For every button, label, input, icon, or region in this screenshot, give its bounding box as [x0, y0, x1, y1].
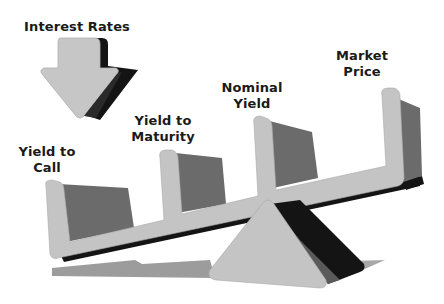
yield-to-call-label: Yield to Call [19, 144, 76, 176]
label-line: Nominal [222, 80, 283, 96]
label-line: Yield to [131, 113, 195, 129]
label-line: Maturity [131, 129, 195, 145]
yield-to-maturity-label: Yield to Maturity [131, 113, 195, 145]
label-line: Yield to [19, 144, 76, 160]
interest-rates-text: Interest Rates [24, 19, 130, 34]
interest-rates-label: Interest Rates [24, 19, 130, 35]
market-price-label: Market Price [336, 48, 388, 80]
label-line: Market [336, 48, 388, 64]
label-line: Price [336, 64, 388, 80]
label-line: Yield [222, 96, 283, 112]
label-line: Call [19, 160, 76, 176]
ground-shadow [52, 260, 215, 278]
down-arrow-icon [41, 38, 138, 120]
seesaw-diagram: Interest Rates Yield to Call Yield to Ma… [0, 0, 444, 304]
nominal-yield-label: Nominal Yield [222, 80, 283, 112]
